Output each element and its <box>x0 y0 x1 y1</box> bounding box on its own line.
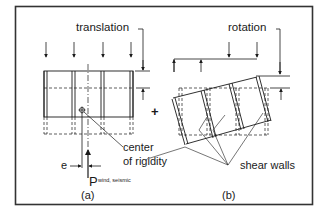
load-label: P <box>89 174 98 189</box>
shear-walls-a <box>44 71 133 117</box>
translation-leader <box>138 29 143 70</box>
caption-b: (b) <box>222 189 235 201</box>
translation-label: translation <box>76 21 129 33</box>
diagram-canvas: translation center of rigidity e P wind,… <box>0 0 325 218</box>
plus-symbol: + <box>151 104 159 119</box>
building-outline-a <box>44 71 133 117</box>
displaced-outline-a <box>44 88 133 134</box>
shear-walls-label: shear walls <box>240 159 296 171</box>
load-subscript: wind, seismic <box>97 177 131 183</box>
center-label-2: of rigidity <box>123 155 168 167</box>
original-outline-b <box>179 88 268 135</box>
rotation-label: rotation <box>228 21 266 33</box>
caption-a: (a) <box>81 189 94 201</box>
eccentricity-label: e <box>61 159 67 171</box>
load-arrows-a <box>46 42 131 57</box>
center-label-1: center <box>123 141 154 153</box>
panel-b-rotation <box>147 29 290 165</box>
